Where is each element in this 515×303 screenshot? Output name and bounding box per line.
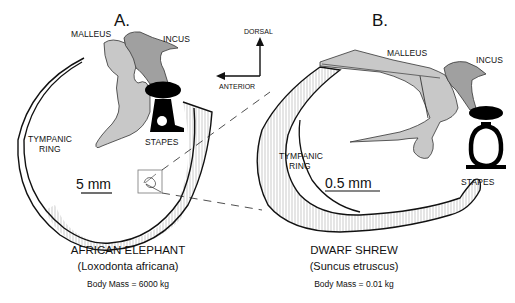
elephant-species-name: AFRICAN ELEPHANT bbox=[71, 245, 185, 257]
elephant-malleus-label: MALLEUS bbox=[71, 30, 111, 39]
dashed-projection-lines bbox=[162, 92, 270, 210]
inset-shrew-scale-box bbox=[138, 170, 162, 193]
anterior-label: ANTERIOR bbox=[219, 83, 255, 90]
elephant-tympanic-ring bbox=[18, 58, 212, 250]
orientation-arrows bbox=[222, 43, 260, 76]
shrew-stapes-label: STAPES bbox=[461, 178, 495, 187]
shrew-scientific-name: (Suncus etruscus) bbox=[310, 261, 399, 272]
shrew-malleus-label: MALLEUS bbox=[387, 49, 427, 58]
elephant-scientific-name: (Loxodonta africana) bbox=[78, 261, 179, 272]
shrew-incus-label: INCUS bbox=[476, 56, 503, 65]
elephant-tympanic-label-2: RING bbox=[39, 145, 61, 154]
elephant-stapes bbox=[145, 82, 184, 133]
shrew-stapes bbox=[466, 106, 506, 169]
dorsal-label: DORSAL bbox=[244, 28, 273, 35]
elephant-stapes-label: STAPES bbox=[145, 138, 179, 147]
shrew-tympanic-label-2: RING bbox=[289, 162, 311, 171]
shrew-body-mass: Body Mass = 0.01 kg bbox=[314, 280, 394, 289]
shrew-species-name: DWARF SHREW bbox=[310, 245, 398, 257]
panel-b-letter: B. bbox=[372, 12, 388, 29]
ossicle-diagram bbox=[0, 0, 515, 303]
dorsal-arrow-head bbox=[256, 37, 264, 46]
shrew-tympanic-label-1: TYMPANIC bbox=[279, 152, 323, 161]
scale-bar-label-a: 5 mm bbox=[76, 177, 111, 191]
anterior-arrow-head bbox=[216, 72, 225, 80]
elephant-body-mass: Body Mass = 6000 kg bbox=[87, 280, 169, 289]
panel-a-letter: A. bbox=[114, 12, 130, 29]
elephant-incus-label: INCUS bbox=[163, 35, 190, 44]
elephant-tympanic-label-1: TYMPANIC bbox=[28, 135, 72, 144]
scale-bar-label-b: 0.5 mm bbox=[325, 176, 372, 190]
